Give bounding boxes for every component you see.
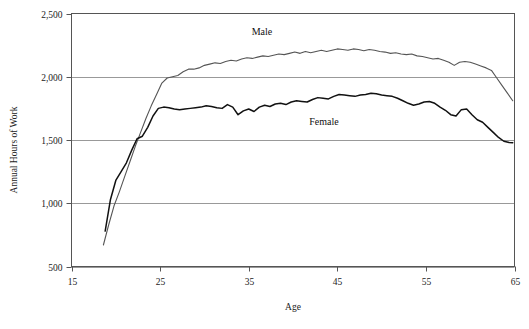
series-annotations: MaleFemale <box>252 26 340 127</box>
x-tick-label: 65 <box>511 277 521 287</box>
x-tick-labels: 152535455565 <box>68 277 521 287</box>
x-tick-label: 15 <box>68 277 78 287</box>
chart-figure: 5001,0001,5002,0002,500 152535455565 Mal… <box>0 0 529 329</box>
y-tick-label: 500 <box>48 263 63 273</box>
series-line-male <box>103 49 512 245</box>
y-tick-labels: 5001,0001,5002,0002,500 <box>41 10 63 273</box>
x-axis-title: Age <box>285 302 301 312</box>
x-tick-label: 35 <box>245 277 255 287</box>
series-label-male: Male <box>252 26 273 37</box>
y-tick-label: 2,000 <box>41 73 63 83</box>
data-series <box>103 49 512 245</box>
y-tick-label: 1,000 <box>41 199 63 209</box>
x-tick-label: 45 <box>333 277 343 287</box>
chart-svg: 5001,0001,5002,0002,500 152535455565 Mal… <box>0 0 529 329</box>
x-tick-label: 25 <box>156 277 166 287</box>
y-tick-label: 2,500 <box>41 10 63 20</box>
y-axis-title: Annual Hours of Work <box>9 106 19 193</box>
series-label-female: Female <box>309 116 339 127</box>
x-tick-label: 55 <box>422 277 432 287</box>
gridlines <box>72 78 515 268</box>
series-line-female <box>105 93 513 231</box>
y-tick-label: 1,500 <box>41 136 63 146</box>
